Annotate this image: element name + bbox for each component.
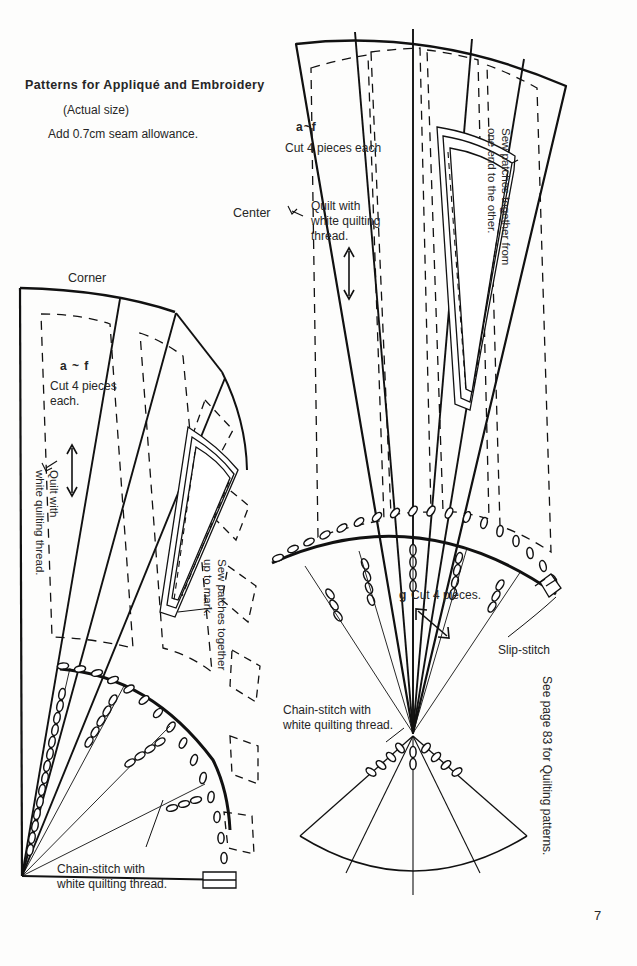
slip-stitch-leader — [508, 597, 556, 637]
corner-piece-range: a ~ f — [60, 359, 89, 374]
center-sew-note: Sew patches together from one end to the… — [484, 128, 513, 265]
slip-stitch-label: Slip-stitch — [498, 643, 550, 658]
center-section-label: Center — [233, 206, 271, 222]
fold-detail-center — [535, 574, 561, 597]
center-fan — [272, 29, 566, 895]
chain-stitch-rays-upper — [324, 544, 505, 622]
actual-size-note: (Actual size) — [63, 103, 129, 118]
corner-cut-note: Cut 4 pieces each. — [50, 379, 117, 409]
corner-sew-note: Sew patches together up to mark. — [200, 559, 229, 670]
seam-allowance-note: Add 0.7cm seam allowance. — [48, 127, 198, 142]
grain-arrow-center — [344, 248, 354, 299]
g-piece-label: g — [399, 588, 407, 603]
g-cut-note: Cut 4 pieces. — [411, 588, 481, 603]
quilting-reference-note: See page 83 for Quilting patterns. — [539, 676, 554, 855]
center-fan-lower — [300, 736, 527, 895]
chain-stitch-rays-corner — [26, 688, 202, 856]
pattern-page: Patterns for Appliqué and Embroidery (Ac… — [0, 0, 637, 966]
center-chain-stitch-note: Chain-stitch with white quilting thread. — [283, 703, 393, 733]
center-quilt-note: Quilt with white quilting thread. — [311, 199, 380, 244]
corner-quilt-note: Quilt with white quilting thread. — [32, 470, 61, 575]
corner-chain-stitch-note: Chain-stitch with white quilting thread. — [57, 862, 167, 892]
fold-detail-corner — [203, 872, 236, 888]
center-cut-note: Cut 4 pieces each — [285, 141, 381, 156]
page-title: Patterns for Appliqué and Embroidery — [25, 78, 265, 94]
corner-section-label: Corner — [68, 271, 106, 287]
center-piece-range: a~f — [296, 120, 317, 135]
page-number: 7 — [594, 908, 601, 924]
grain-arrow-corner — [67, 445, 77, 496]
